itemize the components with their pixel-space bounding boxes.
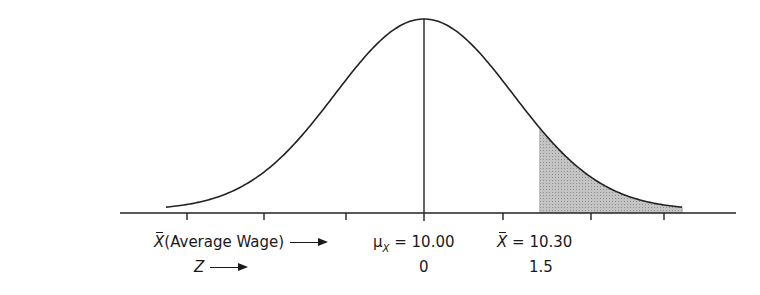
- arrow-right-icon: [290, 242, 326, 243]
- z-axis-label: Z: [194, 258, 246, 276]
- z-sample-value: 1.5: [529, 258, 553, 276]
- sample-mean-label: X = 10.30: [497, 233, 572, 251]
- sample-mean-value: 10.30: [529, 233, 572, 251]
- z-mean-value: 0: [419, 258, 429, 276]
- arrow-right-icon: [210, 267, 246, 268]
- z-symbol: Z: [194, 258, 204, 276]
- equals-sign: =: [394, 233, 407, 251]
- axis-ticks: [187, 213, 664, 221]
- xbar-axis-desc: (Average Wage): [164, 233, 284, 251]
- xbar-symbol: X: [154, 233, 164, 251]
- shaded-tail-area: [539, 127, 683, 213]
- mu-subscript: X: [383, 243, 390, 254]
- xbar-symbol: X: [497, 233, 507, 251]
- equals-sign: =: [512, 233, 525, 251]
- mean-label: μX = 10.00: [373, 233, 455, 253]
- mean-value: 10.00: [412, 233, 455, 251]
- mu-symbol: μ: [373, 233, 383, 251]
- xbar-axis-label: X(Average Wage): [154, 233, 326, 251]
